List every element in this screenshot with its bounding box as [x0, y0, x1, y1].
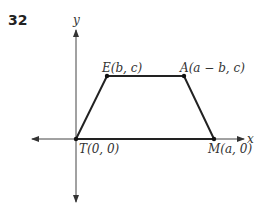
- label-T: T(0, 0): [79, 142, 120, 156]
- vertex-T: [74, 137, 78, 141]
- y-axis-label: y: [72, 13, 80, 27]
- label-M: M(a, 0): [207, 142, 252, 156]
- label-E: E(b, c): [101, 61, 142, 75]
- trapezoid-edges: [76, 76, 214, 139]
- trapezoid-diagram: y x E(b, c) A(a − b, c) T(0, 0) M(a, 0): [0, 0, 264, 211]
- label-A: A(a − b, c): [179, 61, 245, 75]
- vertex-M: [212, 137, 216, 141]
